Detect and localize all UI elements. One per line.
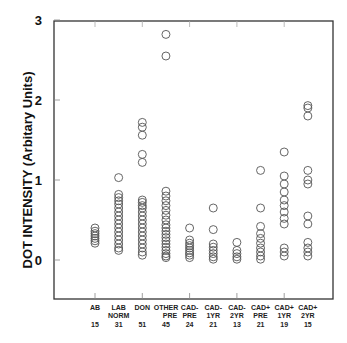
category-name: 1YR — [277, 312, 291, 319]
category-n: 15 — [91, 321, 99, 328]
y-tick-label: 2 — [35, 93, 42, 108]
category-name: CAD+ — [298, 304, 317, 311]
dot-plot-chart: 0123 AB15LABNORM31DON51OTHERPRE45CAD-PRE… — [0, 0, 347, 343]
category-name: CAD- — [181, 304, 199, 311]
y-tick-label: 3 — [35, 13, 42, 28]
category-n: 24 — [186, 321, 194, 328]
category-n: 19 — [280, 321, 288, 328]
y-axis-label: DOT INTENSITY (Arbitary Units) — [20, 72, 35, 269]
category-name: PRE — [182, 312, 197, 319]
category-name: PRE — [253, 312, 268, 319]
category-n: 13 — [233, 321, 241, 328]
category-n: 51 — [138, 321, 146, 328]
category-name: CAD- — [228, 304, 246, 311]
category-name: OTHER — [154, 304, 179, 311]
category-name: AB — [90, 304, 100, 311]
category-n: 21 — [209, 321, 217, 328]
category-name: PRE — [163, 312, 178, 319]
category-name: CAD+ — [251, 304, 270, 311]
category-name: CAD+ — [275, 304, 294, 311]
category-n: 45 — [162, 321, 170, 328]
category-n: 31 — [115, 321, 123, 328]
category-n: 15 — [304, 321, 312, 328]
category-name: 2YR — [230, 312, 244, 319]
category-name: DON — [135, 304, 151, 311]
y-tick-label: 0 — [35, 253, 42, 268]
category-name: NORM — [108, 312, 130, 319]
category-name: 1YR — [206, 312, 220, 319]
y-tick-label: 1 — [35, 173, 42, 188]
category-n: 21 — [257, 321, 265, 328]
category-name: LAB — [111, 304, 125, 311]
chart-background — [0, 0, 347, 343]
category-name: 2YR — [301, 312, 315, 319]
category-name: CAD- — [205, 304, 223, 311]
